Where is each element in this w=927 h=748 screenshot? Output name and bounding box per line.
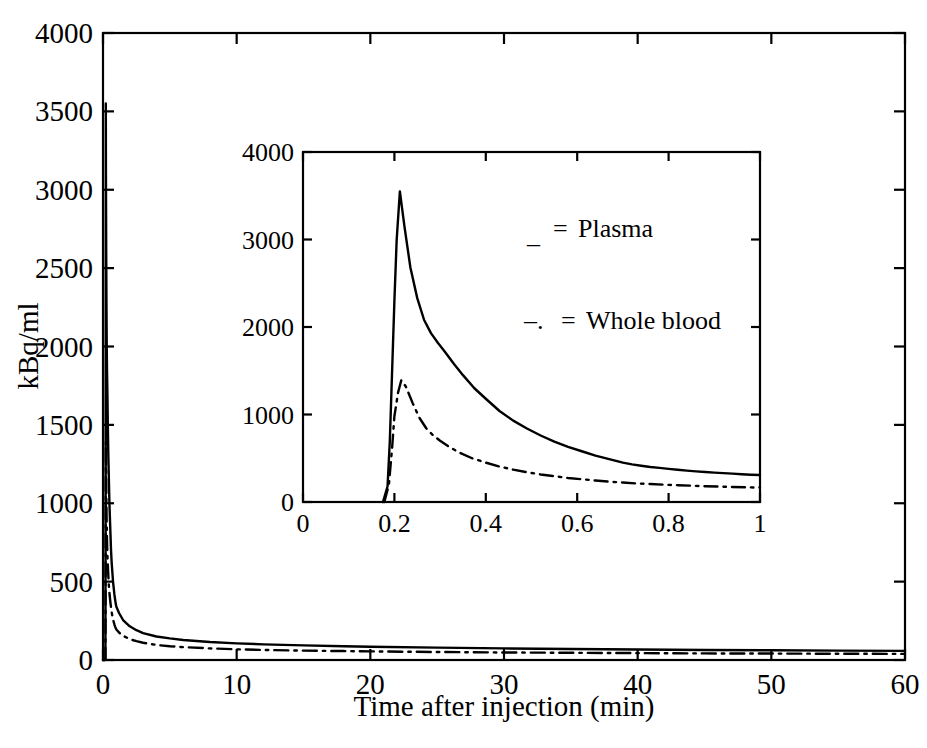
y-tick-label: 4000 [35, 17, 93, 49]
legend-entry-plasma-separator: = [553, 214, 568, 243]
y-tick-label: 2500 [35, 252, 93, 284]
x-tick-label: 0 [96, 668, 111, 700]
y-tick-label: 3000 [35, 174, 93, 206]
inset-x-tick-label: 0.8 [652, 509, 685, 538]
inset-x-tick-label: 0.4 [470, 509, 503, 538]
x-tick-label: 60 [891, 668, 920, 700]
y-tick-label: 500 [50, 566, 94, 598]
legend-entry-whole-blood-separator: = [561, 306, 576, 335]
chart-svg: 0102030405060 05001000150020002500300035… [0, 0, 927, 748]
figure-container: 0102030405060 05001000150020002500300035… [0, 0, 927, 748]
x-axis-title: Time after injection (min) [354, 690, 655, 723]
legend-entry-plasma-label: Plasma [578, 214, 654, 243]
y-tick-label: 1500 [35, 409, 93, 441]
inset-x-tick-label: 0.6 [561, 509, 594, 538]
inset-y-tick-label: 2000 [242, 313, 294, 342]
inset-x-tick-labels: 00.20.40.60.81 [297, 509, 767, 538]
legend-entry-whole-blood-label: Whole blood [586, 306, 721, 335]
inset-x-tick-label: 1 [754, 509, 767, 538]
y-axis-title: kBq/ml [12, 302, 44, 389]
inset-y-tick-label: 3000 [242, 226, 294, 255]
inset-y-tick-label: 0 [281, 488, 294, 517]
x-tick-label: 10 [222, 668, 251, 700]
y-tick-label: 3500 [35, 95, 93, 127]
inset-axes: 00.20.40.60.81 01000200030004000 [242, 138, 767, 538]
y-tick-label: 1000 [35, 487, 93, 519]
legend-entry-plasma-marker: _ [526, 220, 541, 249]
x-tick-label: 50 [757, 668, 786, 700]
inset-x-tick-label: 0.2 [378, 509, 411, 538]
inset-y-tick-label: 4000 [242, 138, 294, 167]
inset-x-tick-label: 0 [297, 509, 310, 538]
inset-y-tick-label: 1000 [242, 401, 294, 430]
legend-entry-whole-blood-marker: –. [523, 306, 544, 335]
y-tick-label: 0 [79, 644, 94, 676]
inset-y-tick-labels: 01000200030004000 [242, 138, 294, 517]
